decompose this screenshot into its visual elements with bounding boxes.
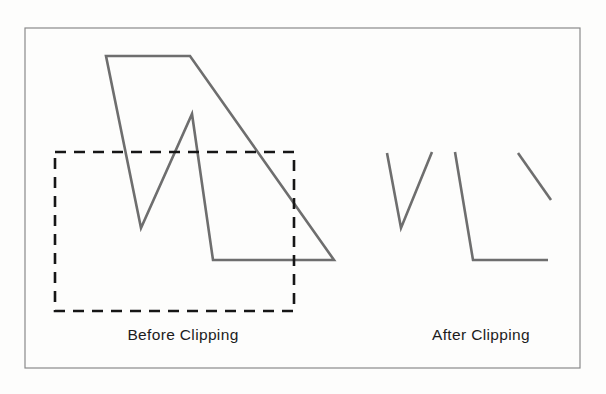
caption-before-clipping: Before Clipping	[88, 326, 278, 344]
clipping-figure: Before Clipping After Clipping	[0, 0, 606, 394]
caption-after-clipping: After Clipping	[386, 326, 576, 344]
